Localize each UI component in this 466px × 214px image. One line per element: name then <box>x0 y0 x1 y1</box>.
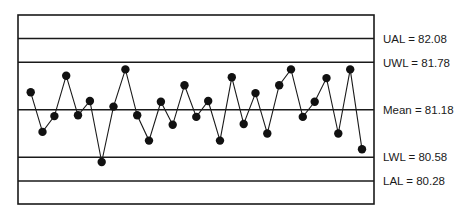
data-point <box>240 120 248 128</box>
data-point <box>50 112 58 120</box>
data-point <box>216 136 224 144</box>
data-point <box>98 158 106 166</box>
data-point <box>180 81 188 89</box>
data-point <box>27 88 35 96</box>
lwl-label: LWL = 80.58 <box>383 151 447 163</box>
data-point <box>133 111 141 119</box>
control-chart: UAL = 82.08 UWL = 81.78 Mean = 81.18 LWL… <box>0 0 466 214</box>
data-point <box>192 113 200 121</box>
mean-label: Mean = 81.18 <box>383 104 454 116</box>
data-point <box>263 129 271 137</box>
data-points <box>27 65 367 166</box>
data-point <box>358 145 366 153</box>
data-point <box>38 128 46 136</box>
data-point <box>169 121 177 129</box>
data-point <box>287 65 295 73</box>
ual-label: UAL = 82.08 <box>383 33 447 45</box>
data-point <box>86 97 94 105</box>
data-point <box>74 111 82 119</box>
data-point <box>204 97 212 105</box>
data-point <box>62 72 70 80</box>
data-point <box>157 98 165 106</box>
data-point <box>251 89 259 97</box>
data-point <box>322 74 330 82</box>
data-point <box>121 65 129 73</box>
data-point <box>334 129 342 137</box>
uwl-label: UWL = 81.78 <box>383 57 450 69</box>
data-point <box>109 102 117 110</box>
lal-label: LAL = 80.28 <box>383 175 445 187</box>
data-point <box>299 113 307 121</box>
data-point <box>228 73 236 81</box>
control-lines <box>18 39 374 182</box>
data-point <box>275 81 283 89</box>
data-point <box>145 136 153 144</box>
data-point <box>311 98 319 106</box>
data-point <box>346 65 354 73</box>
